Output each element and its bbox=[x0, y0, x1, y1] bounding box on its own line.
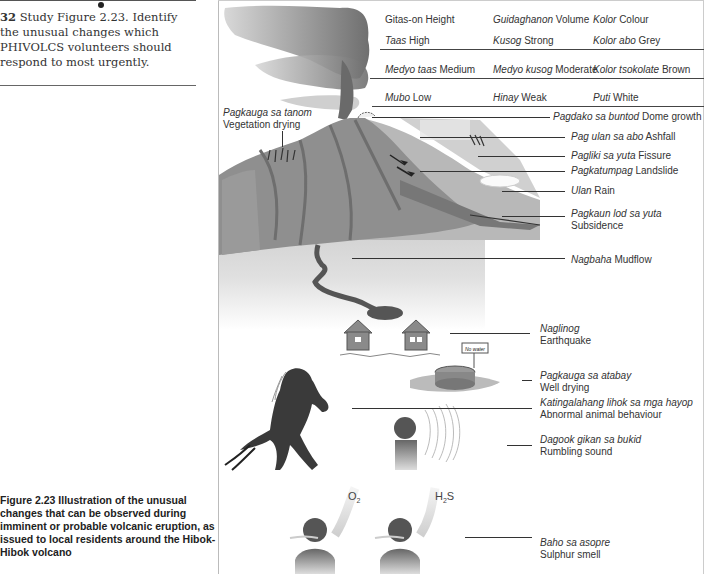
volcano-illustration: No water bbox=[0, 0, 707, 574]
label-fissure: Pagliki sa yuta Fissure bbox=[571, 150, 671, 162]
well-sign-text: No water bbox=[465, 346, 485, 352]
legend-low: Mubo Low bbox=[385, 92, 431, 103]
boy-listening-icon bbox=[394, 404, 460, 470]
legend-strong: Kusog Strong bbox=[493, 35, 554, 46]
label-vegetation-drying: Pagkauga sa tanom Vegetation drying bbox=[223, 107, 312, 131]
leader-vegetation bbox=[282, 131, 283, 147]
leader-earthquake bbox=[450, 333, 530, 334]
legend-high: Taas High bbox=[385, 35, 430, 46]
leader-subsidence bbox=[502, 216, 565, 217]
legend-weak: Hinay Weak bbox=[493, 92, 547, 103]
label-dome-growth: Pagdako sa buntod Dome growth bbox=[553, 111, 701, 123]
leader-sulphur bbox=[465, 537, 532, 538]
leader-well bbox=[522, 380, 532, 381]
label-rumbling-sound: Dagook gikan sa bukid Rumbling sound bbox=[540, 434, 641, 458]
label-mudflow: Nagbaha Mudflow bbox=[571, 254, 652, 266]
label-sulphur-smell: Baho sa asopre Sulphur smell bbox=[540, 537, 610, 561]
label-landslide: Pagkatumpag Landslide bbox=[571, 165, 678, 177]
legend-white: Puti White bbox=[593, 92, 639, 103]
boys-smelling-icon bbox=[290, 488, 435, 574]
leader-rumbling bbox=[507, 445, 532, 446]
legend-medium: Medyo taas Medium bbox=[385, 64, 475, 75]
legend-rule-3 bbox=[372, 106, 704, 107]
oxygen-label: O2 bbox=[348, 490, 360, 504]
label-well-drying: Pagkauga sa atabay Well drying bbox=[540, 370, 631, 394]
legend-grey: Kolor abo Grey bbox=[593, 35, 660, 46]
leader-mudflow bbox=[352, 258, 565, 259]
label-animal-behaviour: Katingalahang lihok sa mga hayop Abnorma… bbox=[540, 397, 693, 421]
ash-plume-icon bbox=[224, 6, 369, 120]
label-ashfall: Pag ulan sa abo Ashfall bbox=[571, 131, 676, 143]
leader-landslide bbox=[420, 171, 565, 172]
hydrogen-sulphide-label: H2S bbox=[435, 490, 454, 504]
label-earthquake: Naglinog Earthquake bbox=[540, 323, 591, 347]
legend-moderate: Medyo kusog Moderate bbox=[493, 64, 598, 75]
leader-ashfall bbox=[420, 137, 565, 138]
leader-fissure bbox=[478, 156, 565, 157]
legend-rule-1 bbox=[380, 49, 704, 50]
label-subsidence: Pagkaun lod sa yuta Subsidence bbox=[571, 208, 662, 232]
label-rain: Ulan Rain bbox=[571, 185, 615, 197]
legend-header-volume: Guidaghanon Volume bbox=[493, 14, 589, 25]
legend-header-colour: Kolor Colour bbox=[593, 14, 649, 25]
leader-rain bbox=[502, 191, 565, 192]
leader-animal bbox=[352, 408, 532, 409]
legend-brown: Kolor tsokolate Brown bbox=[593, 64, 690, 75]
legend-rule-2 bbox=[370, 78, 704, 79]
leader-dome bbox=[372, 117, 550, 118]
legend-header-height: Gitas-on Height bbox=[385, 14, 454, 25]
horse-icon bbox=[240, 368, 328, 470]
